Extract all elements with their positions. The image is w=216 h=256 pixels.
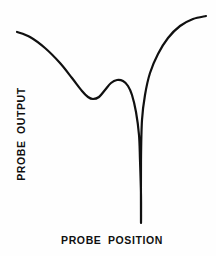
y-axis-label: PROBE OUTPUT: [6, 0, 36, 256]
y-axis-label-text: PROBE OUTPUT: [6, 87, 36, 181]
x-axis-label: PROBE POSITION: [4, 234, 216, 246]
probe-response-figure: PROBE OUTPUT PROBE POSITION: [0, 0, 216, 256]
